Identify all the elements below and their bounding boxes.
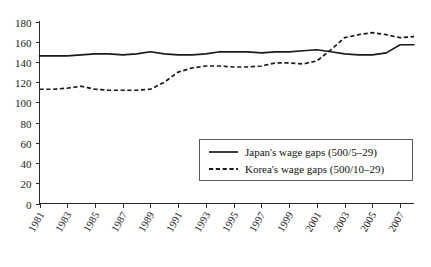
- y-tick-label: 100: [15, 97, 32, 109]
- y-tick-label: 120: [15, 77, 32, 89]
- x-tick-label: 1997: [247, 210, 267, 234]
- x-tick-label: 1987: [109, 210, 129, 234]
- y-tick-label: 180: [15, 17, 32, 29]
- x-tick-label: 1983: [53, 210, 73, 234]
- line-chart: 020406080100120140160180 198119831985198…: [0, 0, 431, 267]
- legend-label-korea: Korea's wage gaps (500/10–29): [245, 163, 384, 176]
- x-tick-label: 2001: [303, 210, 323, 234]
- chart-legend: Japan's wage gaps (500/5–29) Korea's wag…: [200, 140, 413, 181]
- y-tick-label: 140: [15, 57, 32, 69]
- x-tick-label: 1989: [136, 210, 156, 234]
- chart-figure: 020406080100120140160180 198119831985198…: [0, 0, 431, 267]
- legend-label-japan: Japan's wage gaps (500/5–29): [245, 146, 377, 159]
- x-tick-label: 2007: [386, 210, 406, 234]
- y-tick-label: 60: [21, 138, 33, 150]
- series-line-japan: [40, 45, 415, 56]
- x-tick-label: 1995: [220, 210, 240, 234]
- x-axis-tick-group: 1981198319851987198919911993199519971999…: [26, 204, 406, 234]
- x-tick-label: 2003: [331, 210, 351, 234]
- x-tick-label: 1999: [275, 210, 295, 234]
- x-tick-label: 1991: [164, 210, 184, 234]
- y-tick-label: 160: [15, 37, 32, 49]
- y-tick-label: 0: [26, 199, 32, 211]
- y-tick-label: 20: [21, 178, 33, 190]
- y-axis-tick-group: 020406080100120140160180: [15, 17, 40, 211]
- x-tick-label: 1985: [81, 210, 101, 234]
- x-tick-label: 2005: [358, 210, 378, 234]
- series-line-korea: [40, 33, 415, 91]
- y-tick-label: 80: [21, 118, 33, 130]
- x-tick-label: 1993: [192, 210, 212, 234]
- x-tick-label: 1981: [26, 210, 46, 234]
- y-tick-label: 40: [21, 158, 33, 170]
